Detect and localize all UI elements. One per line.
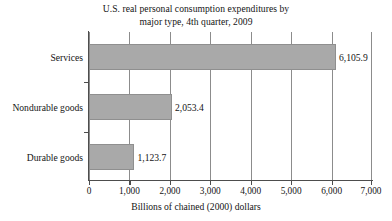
- x-tick-1000: [129, 180, 130, 185]
- category-label-durable-goods: Durable goods: [0, 152, 83, 163]
- y-axis-line: [88, 31, 89, 181]
- x-tick-label-7000: 7,000: [351, 186, 391, 197]
- x-tick-label-4000: 4,000: [231, 186, 271, 197]
- chart-title: U.S. real personal consumption expenditu…: [60, 3, 332, 28]
- x-tick-label-5000: 5,000: [271, 186, 311, 197]
- category-label-services: Services: [0, 52, 83, 63]
- x-axis-line: [88, 180, 373, 181]
- x-tick-3000: [210, 180, 211, 185]
- chart-container: U.S. real personal consumption expenditu…: [0, 0, 392, 221]
- x-axis-title: Billions of chained (2000) dollars: [0, 201, 392, 213]
- bar-nondurable-goods: [89, 94, 172, 120]
- bar-value-services: 6,105.9: [339, 52, 368, 63]
- x-tick-5000: [291, 180, 292, 185]
- y-tick-2: [84, 132, 89, 133]
- x-tick-label-1000: 1,000: [109, 186, 149, 197]
- gridline-7000: [371, 32, 372, 180]
- x-tick-label-6000: 6,000: [312, 186, 352, 197]
- bar-value-durable-goods: 1,123.7: [138, 152, 167, 163]
- x-tick-7000: [371, 180, 372, 185]
- x-tick-0: [89, 180, 90, 185]
- plot-area: [89, 32, 372, 180]
- x-tick-label-3000: 3,000: [190, 186, 230, 197]
- x-tick-label-0: 0: [69, 186, 109, 197]
- chart-title-line-2: major type, 4th quarter, 2009: [60, 16, 332, 29]
- bar-durable-goods: [89, 144, 134, 170]
- bar-services: [89, 44, 336, 70]
- chart-title-line-1: U.S. real personal consumption expenditu…: [60, 3, 332, 16]
- x-tick-label-2000: 2,000: [150, 186, 190, 197]
- bar-value-nondurable-goods: 2,053.4: [175, 102, 204, 113]
- x-tick-6000: [332, 180, 333, 185]
- y-tick-1: [84, 82, 89, 83]
- x-tick-4000: [251, 180, 252, 185]
- x-tick-2000: [170, 180, 171, 185]
- category-label-nondurable-goods: Nondurable goods: [0, 102, 83, 113]
